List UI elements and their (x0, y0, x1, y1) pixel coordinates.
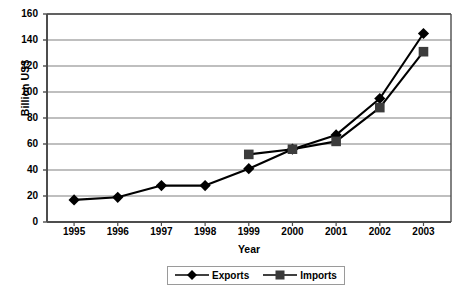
data-point-exports-1998 (200, 180, 211, 191)
chart-legend: Exports Imports (167, 266, 345, 285)
series-line-exports (74, 34, 423, 200)
data-point-imports-2003 (419, 47, 429, 57)
data-point-imports-2000 (288, 144, 298, 154)
legend-label-exports: Exports (212, 270, 249, 281)
exports-legend-marker-icon (175, 269, 209, 281)
data-point-exports-1997 (156, 180, 167, 191)
data-point-imports-1999 (244, 150, 254, 160)
line-chart: Billion US$ Year 020406080100120140160 1… (0, 0, 458, 293)
data-point-exports-2003 (418, 28, 429, 39)
imports-legend-marker-icon (263, 269, 297, 281)
data-point-imports-2001 (331, 137, 341, 147)
legend-label-imports: Imports (300, 270, 337, 281)
data-point-exports-1996 (112, 192, 123, 203)
legend-item-imports: Imports (263, 269, 337, 281)
plot-area (0, 0, 458, 293)
data-point-imports-2002 (375, 103, 385, 113)
legend-item-exports: Exports (175, 269, 249, 281)
data-point-exports-1999 (243, 163, 254, 174)
